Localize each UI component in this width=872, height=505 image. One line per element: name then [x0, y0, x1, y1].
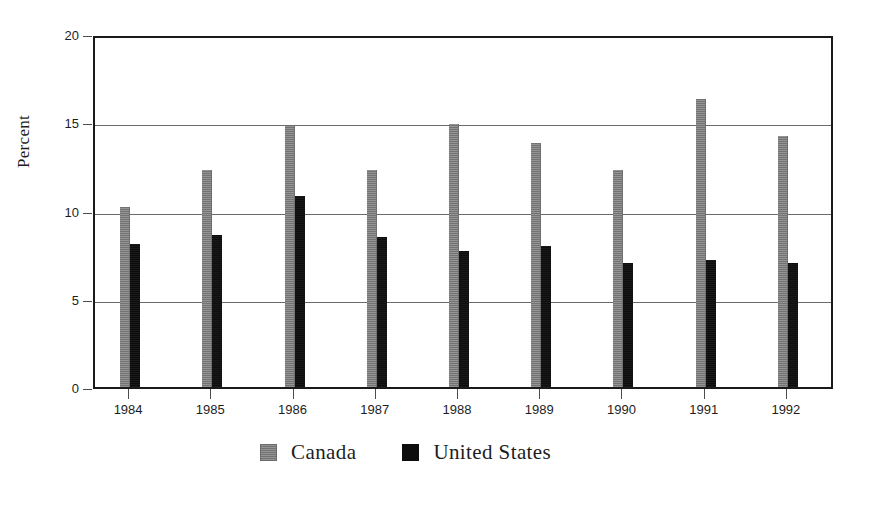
gridline — [95, 125, 831, 126]
y-axis-tick-label: 15 — [49, 117, 79, 130]
x-axis-tick-mark — [704, 389, 705, 399]
bar-united-states-1991 — [706, 260, 716, 387]
legend-entry-united-states: United States — [402, 440, 551, 465]
y-axis-tick-label: 20 — [49, 29, 79, 42]
y-axis-tick-label: 0 — [49, 382, 79, 395]
bar-united-states-1986 — [295, 196, 305, 387]
bar-united-states-1984 — [130, 244, 140, 387]
bar-united-states-1990 — [623, 263, 633, 387]
bar-united-states-1987 — [377, 237, 387, 387]
x-axis-tick-label: 1990 — [581, 403, 661, 416]
x-axis-tick-mark — [621, 389, 622, 399]
plot-area — [93, 36, 833, 389]
x-axis-tick-mark — [293, 389, 294, 399]
bar-chart-figure: Percent 05101520 19841985198619871988198… — [0, 0, 872, 505]
bar-canada-1986 — [285, 126, 295, 387]
y-axis-tick-mark — [83, 389, 92, 390]
bar-united-states-1989 — [541, 246, 551, 387]
x-axis-tick-label: 1989 — [499, 403, 579, 416]
x-axis-tick-mark — [457, 389, 458, 399]
bar-united-states-1992 — [788, 263, 798, 387]
bar-canada-1984 — [120, 207, 130, 387]
bar-canada-1988 — [449, 124, 459, 387]
legend-entry-canada: Canada — [260, 440, 356, 465]
x-axis-tick-label: 1992 — [746, 403, 826, 416]
bar-united-states-1988 — [459, 251, 469, 387]
y-axis-label: Percent — [14, 115, 34, 168]
chart-legend: CanadaUnited States — [260, 440, 551, 465]
x-axis-tick-label: 1985 — [170, 403, 250, 416]
y-axis-tick-mark — [83, 301, 92, 302]
bar-canada-1987 — [367, 170, 377, 387]
legend-label: United States — [433, 440, 551, 465]
bar-canada-1990 — [613, 170, 623, 387]
y-axis-tick-label: 10 — [49, 206, 79, 219]
x-axis-tick-label: 1987 — [335, 403, 415, 416]
bar-canada-1991 — [696, 99, 706, 387]
y-axis-tick-mark — [83, 36, 92, 37]
x-axis-tick-mark — [786, 389, 787, 399]
x-axis-tick-mark — [375, 389, 376, 399]
bar-canada-1985 — [202, 170, 212, 387]
x-axis-tick-mark — [210, 389, 211, 399]
x-axis-tick-mark — [128, 389, 129, 399]
black-swatch-icon — [402, 444, 419, 461]
gray-swatch-icon — [260, 444, 277, 461]
y-axis-tick-label: 5 — [49, 294, 79, 307]
x-axis-tick-label: 1991 — [664, 403, 744, 416]
bar-united-states-1985 — [212, 235, 222, 387]
y-axis-tick-mark — [83, 213, 92, 214]
x-axis-tick-mark — [539, 389, 540, 399]
x-axis-tick-label: 1984 — [88, 403, 168, 416]
x-axis-tick-label: 1986 — [253, 403, 333, 416]
bar-canada-1992 — [778, 136, 788, 387]
legend-label: Canada — [291, 440, 356, 465]
bar-canada-1989 — [531, 143, 541, 387]
x-axis-tick-label: 1988 — [417, 403, 497, 416]
y-axis-tick-mark — [83, 124, 92, 125]
